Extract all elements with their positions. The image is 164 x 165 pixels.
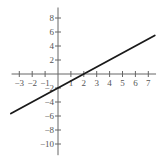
x-tick-label: −2 <box>27 78 37 88</box>
y-tick-label: −4 <box>44 97 54 107</box>
x-tick-label: 5 <box>120 78 125 88</box>
tick-labels: −3−2−112345678642−2−4−6−8−10 <box>15 13 152 149</box>
y-tick-label: −6 <box>44 111 54 121</box>
y-tick-label: 4 <box>50 41 55 51</box>
y-tick-label: 8 <box>50 13 55 23</box>
y-tick-label: 2 <box>50 55 55 65</box>
y-tick-label: −8 <box>44 125 54 135</box>
line-chart: −3−2−112345678642−2−4−6−8−10 <box>0 0 164 165</box>
x-tick-label: 3 <box>94 78 99 88</box>
x-tick-label: 2 <box>82 78 87 88</box>
x-tick-label: 6 <box>133 78 138 88</box>
y-tick-label: −10 <box>40 139 55 149</box>
x-tick-label: −3 <box>15 78 25 88</box>
x-tick-label: 7 <box>146 78 151 88</box>
y-tick-label: 6 <box>50 27 55 37</box>
x-tick-label: 4 <box>107 78 112 88</box>
